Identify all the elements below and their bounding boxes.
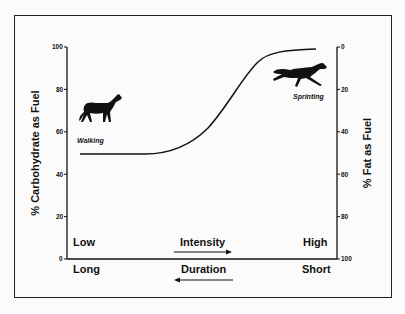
right-tick-80: 80 (341, 213, 348, 220)
right-tick-0: 0 (341, 43, 345, 50)
low-label: Low (73, 236, 95, 248)
left-tick-0: 0 (59, 255, 63, 262)
left-y-axis-title: % Carbohydrate as Fuel (29, 88, 41, 218)
right-y-axis-title: % Fat as Fuel (361, 103, 373, 203)
right-tick-100: 100 (341, 255, 352, 262)
walking-horse-icon (79, 94, 122, 122)
left-tick-20: 20 (56, 213, 63, 220)
right-tick-60: 60 (341, 171, 348, 178)
left-tick-80: 80 (56, 86, 63, 93)
left-tick-100: 100 (52, 43, 63, 50)
left-tick-40: 40 (56, 171, 63, 178)
walking-caption: Walking (77, 137, 104, 144)
right-tick-40: 40 (341, 128, 348, 135)
intensity-arrow-icon (174, 250, 232, 255)
duration-arrow-icon (174, 278, 233, 283)
short-label: Short (302, 263, 331, 275)
sprinting-horse-icon (273, 63, 327, 87)
duration-label: Duration (181, 263, 226, 275)
left-tick-60: 60 (56, 128, 63, 135)
long-label: Long (73, 263, 100, 275)
right-tick-20: 20 (341, 86, 348, 93)
intensity-label: Intensity (180, 236, 225, 248)
high-label: High (303, 236, 327, 248)
sprinting-caption: Sprinting (293, 93, 324, 100)
